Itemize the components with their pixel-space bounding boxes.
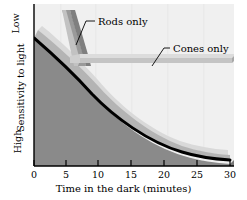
y-axis-label-low: Low <box>10 4 21 44</box>
x-tick-label: 25 <box>191 169 203 180</box>
x-tick-label: 30 <box>224 169 236 180</box>
chart-canvas: 0 5 10 15 20 25 30 Rods only Cones only <box>0 0 247 200</box>
x-tick-label: 0 <box>31 169 37 180</box>
dark-adaptation-chart: 0 5 10 15 20 25 30 Rods only Cones only … <box>0 0 247 200</box>
x-tick-label: 15 <box>125 169 137 180</box>
annotation-rods-only: Rods only <box>98 16 148 27</box>
x-tick-label: 20 <box>158 169 170 180</box>
x-tick-label: 5 <box>63 169 69 180</box>
cones-only-band <box>70 54 236 63</box>
x-tick-label: 10 <box>92 169 104 180</box>
annotation-cones-only: Cones only <box>173 43 229 54</box>
x-axis-title: Time in the dark (minutes) <box>0 183 247 194</box>
y-axis-label-high: High <box>12 121 23 163</box>
x-axis-tick-labels: 0 5 10 15 20 25 30 <box>31 169 236 180</box>
